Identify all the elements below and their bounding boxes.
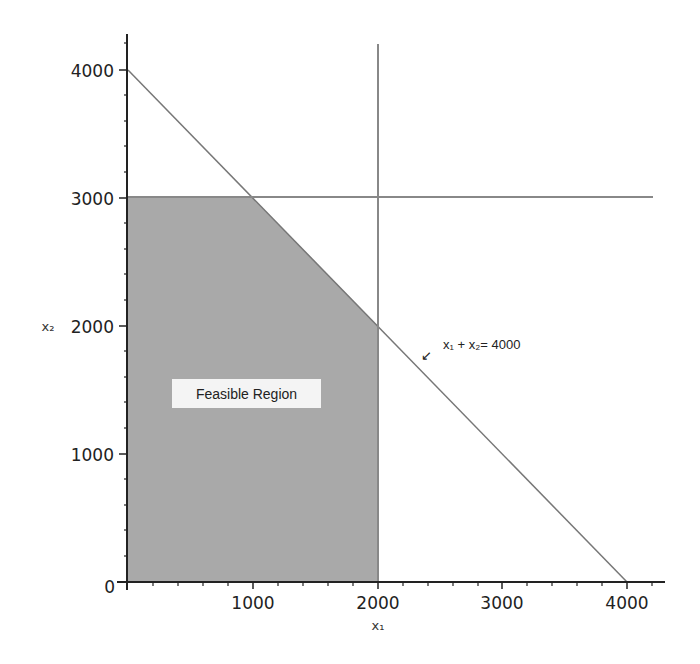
x-minor-ticks [153, 582, 652, 586]
x-tick-label-2000: 2000 [356, 593, 399, 613]
x-axis-label: x₁ [372, 618, 385, 633]
y-ticks [119, 70, 127, 454]
x-ticks [253, 582, 627, 589]
y-tick-label-0: 0 [104, 577, 115, 597]
y-tick-label-3000: 3000 [71, 189, 114, 209]
x-tick-label-1000: 1000 [231, 593, 274, 613]
x-tick-label-3000: 3000 [480, 593, 523, 613]
line-annotation: x₁ + x₂= 4000 [443, 337, 520, 352]
y-tick-label-1000: 1000 [71, 445, 114, 465]
lp-chart: 4000 3000 2000 1000 0 1000 2000 3000 400… [0, 0, 700, 664]
feasible-region-label: Feasible Region [172, 379, 321, 408]
y-tick-label-2000: 2000 [71, 317, 114, 337]
arrow-icon: ↙ [421, 348, 432, 363]
x-tick-label-4000: 4000 [605, 593, 648, 613]
y-tick-label-4000: 4000 [71, 61, 114, 81]
y-axis-label: x₂ [42, 319, 55, 334]
